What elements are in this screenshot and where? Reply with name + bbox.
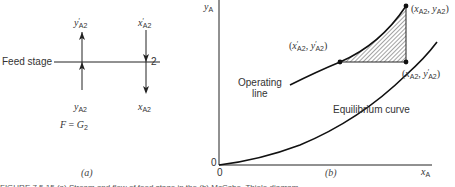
panel-a: Feed stage 2 y′A2 x′A2 yA2 xA2 F = G2 (a… xyxy=(2,17,160,179)
x-axis-label: xA xyxy=(420,166,430,178)
label-y-prime-a2: y′A2 xyxy=(73,17,87,29)
label-point-bottom: (xA2, y′A2) xyxy=(402,68,440,80)
panel-b-caption: (b) xyxy=(325,167,337,179)
operating-line-label: Operating xyxy=(238,77,282,88)
figure-canvas: Feed stage 2 y′A2 x′A2 yA2 xA2 F = G2 (a… xyxy=(0,0,455,187)
origin-x-label: 0 xyxy=(217,167,223,178)
feed-equation: F = G2 xyxy=(59,119,88,131)
feed-stage-label: Feed stage xyxy=(2,56,52,67)
label-point-left: (x′A2, y′A2) xyxy=(289,40,327,52)
label-point-top: (xA2, yA2) xyxy=(411,3,449,15)
operating-line-label-2: line xyxy=(252,88,268,99)
label-x-prime-a2: x′A2 xyxy=(137,17,151,29)
y-axis-label: yA xyxy=(203,1,213,13)
point-bottom xyxy=(404,60,409,65)
stage-number-label: 2 xyxy=(151,56,157,67)
panel-a-caption: (a) xyxy=(81,167,93,179)
label-x-a2: xA2 xyxy=(137,101,151,113)
point-left xyxy=(338,60,343,65)
point-top xyxy=(404,4,409,9)
panel-b: yA xA 0 0 (xA2, yA2) (x′A2, y′A2) (xA2, … xyxy=(203,0,449,179)
label-y-a2: yA2 xyxy=(73,101,87,113)
figure-caption: FIGURE 7.5.15 (a) Stream and flow of fee… xyxy=(0,183,305,187)
equilibrium-curve-label: Equilibrium curve xyxy=(333,104,410,115)
hatched-region xyxy=(340,6,406,62)
